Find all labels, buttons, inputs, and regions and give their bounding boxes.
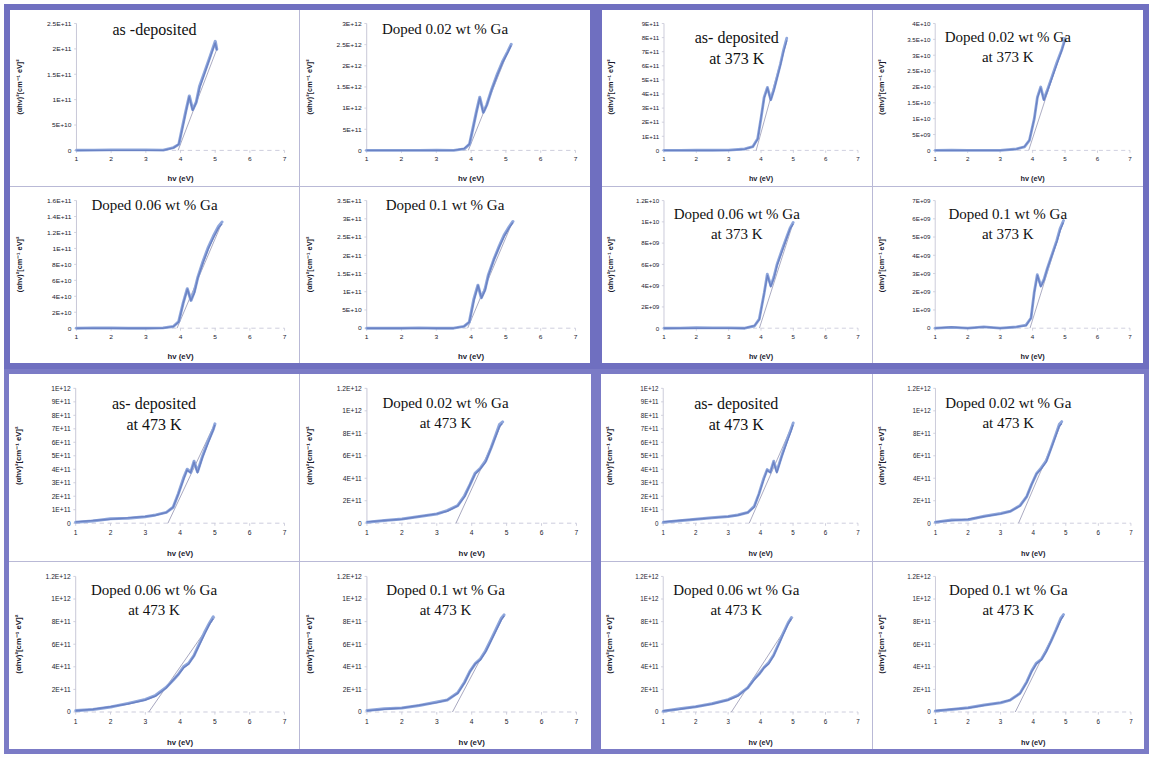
svg-text:(αhv)²[cm⁻¹ eV]²: (αhv)²[cm⁻¹ eV]² [606, 59, 615, 115]
svg-text:7: 7 [283, 155, 287, 162]
svg-text:0: 0 [68, 147, 72, 154]
quadrant-3-panel: 01E+112E+113E+114E+115E+116E+117E+118E+1… [4, 369, 596, 754]
svg-text:7: 7 [1129, 717, 1133, 724]
plot-cell-q2-p1: 01E+112E+113E+114E+115E+116E+117E+118E+1… [602, 10, 873, 187]
svg-text:4: 4 [178, 717, 182, 724]
svg-text:4: 4 [1031, 717, 1035, 724]
svg-text:0: 0 [67, 520, 71, 527]
svg-text:(αhv)²[cm⁻¹ eV]²: (αhv)²[cm⁻¹ eV]² [14, 614, 23, 673]
svg-text:8E+09: 8E+09 [641, 239, 660, 246]
svg-text:2E+12: 2E+12 [342, 62, 362, 69]
svg-text:4: 4 [470, 529, 474, 536]
svg-text:4: 4 [1030, 155, 1034, 162]
plot-cell-q1-p4: 05E+101E+111.5E+112E+112.5E+113E+113.5E+… [300, 187, 590, 364]
svg-text:2E+10: 2E+10 [52, 308, 72, 315]
svg-text:2: 2 [966, 717, 970, 724]
svg-text:9E+11: 9E+11 [641, 398, 659, 405]
svg-text:4: 4 [179, 333, 183, 340]
svg-text:hv (eV): hv (eV) [1020, 352, 1045, 361]
svg-text:1.2E+12: 1.2E+12 [46, 572, 71, 579]
tauc-plot-q4-p2: 02E+114E+116E+118E+111E+121.2E+121234567… [873, 374, 1145, 561]
svg-text:8E+11: 8E+11 [343, 618, 362, 625]
svg-text:2: 2 [400, 529, 404, 536]
svg-text:6E+11: 6E+11 [641, 640, 659, 647]
svg-text:7E+11: 7E+11 [52, 425, 71, 432]
svg-text:6E+11: 6E+11 [912, 452, 930, 459]
svg-text:2E+11: 2E+11 [641, 685, 659, 692]
svg-text:6: 6 [824, 717, 828, 724]
svg-text:6: 6 [1096, 529, 1100, 536]
svg-text:2: 2 [694, 717, 698, 724]
svg-text:(αhv)²[cm⁻¹ eV]²: (αhv)²[cm⁻¹ eV]² [877, 614, 886, 673]
svg-text:2: 2 [966, 529, 970, 536]
svg-text:1: 1 [74, 529, 78, 536]
svg-text:0: 0 [358, 708, 362, 715]
tauc-plot-q2-p3: 02E+094E+096E+098E+091E+101.2E+101234567… [602, 187, 872, 364]
svg-text:6E+11: 6E+11 [641, 439, 659, 446]
svg-text:1E+11: 1E+11 [53, 244, 72, 251]
svg-text:hv (eV): hv (eV) [167, 549, 193, 558]
svg-text:3: 3 [434, 155, 438, 162]
svg-text:0: 0 [358, 147, 362, 154]
svg-text:6: 6 [540, 717, 544, 724]
svg-text:(αhv)²[cm⁻¹ eV]²: (αhv)²[cm⁻¹ eV]² [305, 426, 314, 485]
svg-text:0: 0 [67, 708, 71, 715]
svg-text:hv (eV): hv (eV) [458, 352, 485, 361]
svg-text:5: 5 [213, 529, 217, 536]
svg-text:8E+11: 8E+11 [52, 618, 71, 625]
svg-text:(αhv)²[cm⁻¹ eV]²: (αhv)²[cm⁻¹ eV]² [877, 426, 886, 485]
svg-text:2: 2 [695, 333, 699, 340]
svg-text:0: 0 [927, 324, 931, 331]
svg-text:3E+09: 3E+09 [912, 269, 931, 276]
tauc-plot-q3-p2: 02E+114E+116E+118E+111E+121.2E+121234567… [300, 374, 591, 561]
svg-text:1.5E+12: 1.5E+12 [337, 83, 362, 90]
svg-text:0: 0 [927, 147, 931, 154]
svg-text:4: 4 [759, 717, 763, 724]
svg-text:5: 5 [1064, 717, 1068, 724]
svg-text:1E+10: 1E+10 [912, 115, 931, 122]
svg-text:2: 2 [109, 529, 113, 536]
svg-text:4E+11: 4E+11 [912, 663, 930, 670]
svg-text:7E+11: 7E+11 [642, 48, 660, 55]
svg-text:0: 0 [68, 324, 72, 331]
plot-cell-q2-p3: 02E+094E+096E+098E+091E+101.2E+101234567… [602, 187, 873, 364]
svg-text:2E+11: 2E+11 [343, 497, 362, 504]
svg-text:1.2E+11: 1.2E+11 [47, 228, 72, 235]
svg-text:6E+09: 6E+09 [641, 260, 660, 267]
plot-cell-q2-p4: 01E+092E+093E+094E+095E+096E+097E+091234… [873, 187, 1144, 364]
svg-text:8E+11: 8E+11 [641, 412, 659, 419]
svg-text:7: 7 [283, 717, 287, 724]
svg-text:1E+12: 1E+12 [342, 407, 362, 414]
svg-text:6E+11: 6E+11 [52, 439, 71, 446]
svg-text:2.5E+10: 2.5E+10 [907, 67, 931, 74]
tauc-plot-q3-p3: 02E+114E+116E+118E+111E+121.2E+121234567… [9, 562, 299, 750]
svg-text:5E+11: 5E+11 [343, 126, 362, 133]
svg-text:1E+11: 1E+11 [641, 506, 659, 513]
svg-text:6: 6 [1095, 155, 1099, 162]
quadrant-4-panel: 01E+112E+113E+114E+115E+116E+117E+118E+1… [596, 369, 1149, 754]
svg-text:4: 4 [759, 333, 763, 340]
svg-text:2E+11: 2E+11 [641, 492, 659, 499]
svg-text:2E+11: 2E+11 [912, 497, 930, 504]
svg-text:4: 4 [179, 155, 183, 162]
svg-text:3E+11: 3E+11 [642, 104, 660, 111]
svg-text:6: 6 [540, 529, 544, 536]
svg-text:1.4E+11: 1.4E+11 [47, 213, 72, 220]
svg-text:5E+09: 5E+09 [912, 131, 931, 138]
svg-text:4: 4 [470, 717, 474, 724]
svg-text:8E+11: 8E+11 [641, 617, 659, 624]
plot-cell-q4-p2: 02E+114E+116E+118E+111E+121.2E+121234567… [873, 374, 1145, 562]
svg-text:hv (eV): hv (eV) [459, 738, 486, 747]
svg-text:2: 2 [965, 333, 969, 340]
tauc-plot-q4-p3: 02E+114E+116E+118E+111E+121.2E+121234567… [601, 562, 872, 750]
svg-text:2.5E+11: 2.5E+11 [337, 233, 362, 240]
svg-text:3E+10: 3E+10 [912, 52, 931, 59]
svg-text:4: 4 [1030, 333, 1034, 340]
svg-text:1.2E+12: 1.2E+12 [907, 385, 931, 392]
svg-text:3.5E+11: 3.5E+11 [337, 197, 362, 204]
svg-text:4E+11: 4E+11 [641, 466, 659, 473]
svg-text:1: 1 [365, 155, 369, 162]
svg-text:7: 7 [283, 333, 287, 340]
svg-text:6E+11: 6E+11 [343, 452, 362, 459]
svg-text:1E+12: 1E+12 [640, 385, 659, 392]
